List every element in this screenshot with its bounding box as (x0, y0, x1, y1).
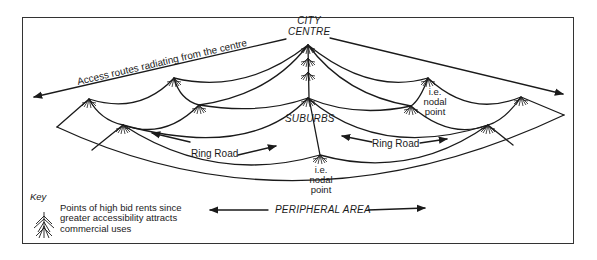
mid-arc-left-outer (123, 105, 199, 130)
suburbs-label: SUBURBS (285, 113, 335, 124)
branching-node-icon (30, 210, 58, 240)
point-text: point (306, 185, 336, 195)
peripheral-area-label: PERIPHERAL AREA (275, 204, 371, 215)
ring-road-left-arrow-l (152, 133, 190, 142)
ring-road-left-mid (123, 98, 308, 138)
access-route-right-arrow (330, 38, 563, 94)
ring-road-left-arrow-r (238, 146, 276, 155)
urban-model-diagram: Access routes radiating from the centre … (0, 0, 597, 260)
key-description: Points of high bid rents since greater a… (60, 203, 190, 234)
outer-right-edge (521, 97, 564, 115)
ring-road-right-label: Ring Road (372, 138, 419, 149)
city-centre-label: CITY CENTRE (288, 15, 330, 37)
top-arc-right-inner (308, 45, 428, 82)
centre-label: CENTRE (288, 26, 330, 37)
nodal-point-bottom-label: i.e. nodal point (306, 165, 336, 195)
outer-left-edge (57, 99, 89, 127)
ring-road-right-arrow-l (342, 136, 372, 142)
nodal-point-right-label: i.e. nodal point (420, 87, 450, 117)
radial-top-right-outer-to-mid (488, 97, 521, 125)
key-title: Key (30, 191, 46, 202)
peripheral-right-arrow (368, 208, 425, 210)
mid-arc-left-inner (199, 98, 308, 109)
access-routes-label: Access routes radiating from the centre (76, 37, 248, 87)
point-text: point (420, 107, 450, 117)
ring-road-inner (123, 125, 488, 165)
mid-arc-right-inner (308, 98, 411, 111)
ring-road-left-label: Ring Road (191, 148, 238, 159)
ring-road-right-arrow-r (420, 139, 447, 143)
city-label: CITY (288, 15, 330, 26)
